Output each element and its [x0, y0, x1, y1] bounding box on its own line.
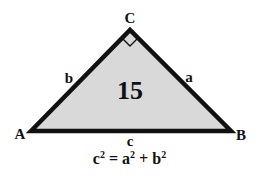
formula-equals: = — [105, 150, 122, 167]
formula-plus: + — [135, 150, 152, 167]
center-number: 15 — [117, 76, 143, 105]
side-label-c: c — [127, 133, 134, 149]
formula-term1-base: a — [122, 150, 130, 167]
vertex-label-b: B — [236, 127, 246, 143]
formula-term2-exponent: 2 — [161, 149, 166, 160]
vertex-label-c: C — [125, 10, 136, 26]
formula-lhs-base: c — [93, 150, 100, 167]
pythagorean-formula: c2 = a2 + b2 — [0, 149, 259, 169]
formula-term2-base: b — [152, 150, 161, 167]
side-label-b: b — [65, 70, 73, 86]
vertex-label-a: A — [15, 126, 26, 142]
side-label-a: a — [185, 69, 193, 85]
